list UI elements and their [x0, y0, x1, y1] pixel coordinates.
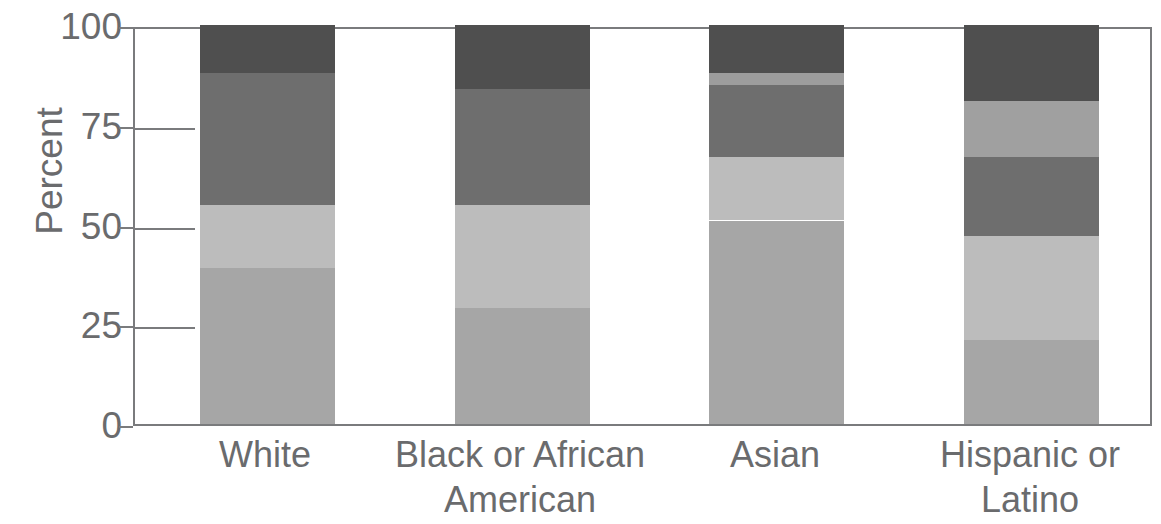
- x-tick-label: White: [135, 432, 395, 477]
- x-tick-label-line: Asian: [730, 434, 820, 475]
- bar-white[interactable]: [200, 25, 335, 424]
- bar-segment[interactable]: [709, 85, 844, 157]
- x-tick-label: Hispanic orLatino: [900, 432, 1160, 522]
- bar-segment[interactable]: [200, 73, 335, 205]
- bar-asian[interactable]: [709, 25, 844, 424]
- x-tick-label-line: American: [390, 477, 650, 522]
- bar-segment[interactable]: [709, 157, 844, 221]
- bar-segment[interactable]: [964, 340, 1099, 424]
- y-tick-label: 25: [28, 307, 122, 344]
- bar-segment[interactable]: [964, 236, 1099, 340]
- bar-segment[interactable]: [964, 157, 1099, 237]
- bar-segment[interactable]: [200, 268, 335, 424]
- bar-segment[interactable]: [455, 89, 590, 205]
- bar-segment[interactable]: [200, 25, 335, 73]
- x-tick-label-line: Latino: [900, 477, 1160, 522]
- bar-segment[interactable]: [709, 73, 844, 85]
- y-tick-label: 75: [28, 108, 122, 145]
- bar-segment[interactable]: [709, 221, 844, 424]
- y-tick-label: 100: [28, 8, 122, 45]
- x-axis-tick-labels: WhiteBlack or AfricanAmericanAsianHispan…: [133, 432, 1152, 524]
- y-tick-mark: [119, 227, 133, 229]
- y-tick-mark: [119, 426, 133, 428]
- x-tick-label: Black or AfricanAmerican: [390, 432, 650, 522]
- x-tick-label-line: Hispanic or: [940, 434, 1120, 475]
- y-tick-mark: [119, 127, 133, 129]
- x-tick-label: Asian: [645, 432, 905, 477]
- y-axis-tick-labels: 0255075100: [10, 0, 122, 524]
- y-tick-mark: [119, 326, 133, 328]
- bar-segment[interactable]: [455, 205, 590, 309]
- stacked-bar-chart: Percent 0255075100 WhiteBlack or African…: [0, 0, 1161, 524]
- grid-line: [135, 128, 195, 130]
- grid-line: [135, 327, 195, 329]
- grid-line: [135, 228, 195, 230]
- bar-segment[interactable]: [709, 25, 844, 73]
- bar-hispanic-or-latino[interactable]: [964, 25, 1099, 424]
- x-tick-label-line: Black or African: [395, 434, 645, 475]
- bar-segment[interactable]: [200, 205, 335, 269]
- bar-segment[interactable]: [964, 101, 1099, 157]
- y-tick-label: 50: [28, 208, 122, 245]
- y-tick-label: 0: [28, 407, 122, 444]
- x-tick-label-line: White: [219, 434, 311, 475]
- bar-segment[interactable]: [455, 25, 590, 89]
- bar-segment[interactable]: [455, 308, 590, 424]
- bar-black-or-african-american[interactable]: [455, 25, 590, 424]
- plot-area: [133, 27, 1152, 426]
- y-tick-mark: [119, 27, 133, 29]
- bar-segment[interactable]: [964, 25, 1099, 101]
